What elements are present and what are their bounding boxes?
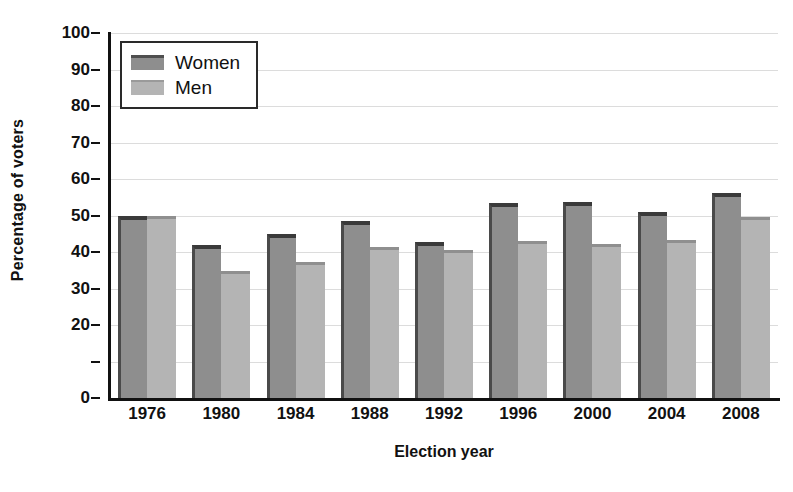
legend-swatch-men-icon: [131, 80, 164, 95]
y-axis-title: Percentage of voters: [0, 0, 36, 400]
bar-women-1980: [192, 245, 221, 398]
bar-men-1980: [221, 271, 250, 398]
y-tick-label: 100: [62, 23, 90, 43]
x-tick-label: 2008: [722, 404, 760, 424]
y-tick-label: 40: [71, 242, 90, 262]
x-tick-label: 2004: [648, 404, 686, 424]
y-tick-mark: [91, 397, 100, 399]
y-tick-label: 70: [71, 133, 90, 153]
x-axis-ticks: 197619801984198819921996200020042008: [110, 404, 778, 434]
y-tick-mark: [91, 142, 100, 144]
bar-group: [638, 33, 696, 398]
y-tick-mark: [91, 69, 100, 71]
bar-group: [489, 33, 547, 398]
bar-women-1984: [267, 234, 296, 398]
y-tick-mark: [91, 32, 100, 34]
x-axis-line: [108, 398, 780, 401]
bar-men-2004: [667, 240, 696, 398]
bar-men-1992: [444, 250, 473, 398]
y-tick-mark: [91, 324, 100, 326]
bar-men-2008: [741, 217, 770, 398]
x-axis-title: Election year: [110, 443, 778, 461]
y-tick-mark: [91, 288, 100, 290]
bar-group: [712, 33, 770, 398]
y-tick-mark: [91, 361, 100, 363]
bar-group: [341, 33, 399, 398]
y-tick-label: 50: [71, 206, 90, 226]
y-tick-mark: [91, 105, 100, 107]
y-axis-title-text: Percentage of voters: [9, 119, 27, 281]
y-tick-label: 80: [71, 96, 90, 116]
bar-women-1996: [489, 203, 518, 398]
plot-area: Women Men: [110, 33, 778, 398]
bar-men-1976: [147, 216, 176, 398]
bar-women-2008: [712, 193, 741, 398]
legend-item-women: Women: [131, 50, 240, 75]
x-tick-label: 1976: [128, 404, 166, 424]
bar-group: [563, 33, 621, 398]
bar-women-1992: [415, 242, 444, 398]
x-tick-label: 1992: [425, 404, 463, 424]
x-tick-label: 1988: [351, 404, 389, 424]
legend-item-men: Men: [131, 75, 240, 100]
y-axis-ticks: 02030405060708090100: [38, 33, 100, 398]
bar-men-2000: [592, 244, 621, 398]
x-tick-label: 1980: [202, 404, 240, 424]
bar-women-2004: [638, 212, 667, 398]
y-tick-label: 0: [81, 388, 90, 408]
y-tick-label: 30: [71, 279, 90, 299]
bar-chart: Percentage of voters 0203040506070809010…: [0, 0, 793, 492]
legend: Women Men: [120, 41, 258, 109]
y-tick-label: 90: [71, 60, 90, 80]
y-tick-label: 20: [71, 315, 90, 335]
y-tick-mark: [91, 251, 100, 253]
bar-women-1988: [341, 221, 370, 398]
legend-swatch-women-icon: [131, 55, 164, 70]
y-tick-label: 60: [71, 169, 90, 189]
legend-label-women: Women: [175, 52, 240, 74]
y-tick-mark: [91, 178, 100, 180]
y-tick-mark: [91, 215, 100, 217]
x-tick-label: 1996: [499, 404, 537, 424]
bar-women-1976: [118, 216, 147, 398]
bar-men-1984: [296, 262, 325, 398]
x-tick-label: 2000: [574, 404, 612, 424]
bar-group: [415, 33, 473, 398]
bar-men-1988: [370, 247, 399, 398]
bar-men-1996: [518, 241, 547, 398]
x-tick-label: 1984: [277, 404, 315, 424]
bar-group: [267, 33, 325, 398]
bar-women-2000: [563, 202, 592, 398]
legend-label-men: Men: [175, 77, 212, 99]
